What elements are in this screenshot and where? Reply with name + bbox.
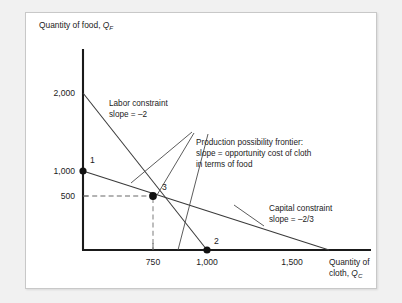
- x-axis-title-line2: cloth, QC: [329, 268, 363, 279]
- point-label-1: 1: [90, 155, 95, 165]
- xtick-label-1000: 1,000: [196, 257, 218, 267]
- data-point-1: [79, 167, 86, 174]
- ytick-label-1000: 1,000: [53, 166, 75, 176]
- y-axis-title: Quantity of food, QF: [39, 20, 114, 31]
- capital-constraint-label-line2: slope = –2/3: [269, 215, 314, 224]
- ppf-leader-line-upper: [131, 132, 192, 183]
- ppf-label-line2: slope = opportunity cost of cloth: [196, 149, 312, 158]
- ppf-label-line3: in terms of food: [196, 160, 253, 169]
- figure-background: Quantity of food, QF 2,000 1,000 500 750…: [0, 0, 402, 303]
- labor-constraint-label-line1: Labor constraint: [109, 99, 168, 108]
- x-axis-title-line1: Quantity of: [329, 257, 370, 267]
- y-axis-title-text: Quantity of food,: [39, 20, 103, 30]
- ytick-label-2000: 2,000: [53, 88, 75, 98]
- xtick-label-1500: 1,500: [281, 257, 303, 267]
- ppf-chart: Quantity of food, QF 2,000 1,000 500 750…: [26, 13, 376, 288]
- point-label-3: 3: [162, 182, 167, 192]
- ppf-label-line1: Production possibility frontier:: [196, 138, 303, 147]
- point-label-2: 2: [214, 236, 219, 246]
- capital-constraint-leader-line: [234, 205, 264, 226]
- labor-constraint-label-line2: slope = –2: [109, 110, 147, 119]
- y-axis-title-subscript: F: [109, 24, 114, 31]
- capital-constraint-label-line1: Capital constraint: [269, 204, 333, 213]
- x-axis-title-subscript: C: [358, 272, 363, 279]
- data-point-3: [149, 192, 157, 200]
- data-point-2: [203, 246, 210, 253]
- xtick-label-750: 750: [146, 257, 161, 267]
- figure-panel: Quantity of food, QF 2,000 1,000 500 750…: [25, 12, 377, 289]
- ytick-label-500: 500: [61, 191, 76, 201]
- x-axis-title-text: cloth,: [329, 268, 351, 278]
